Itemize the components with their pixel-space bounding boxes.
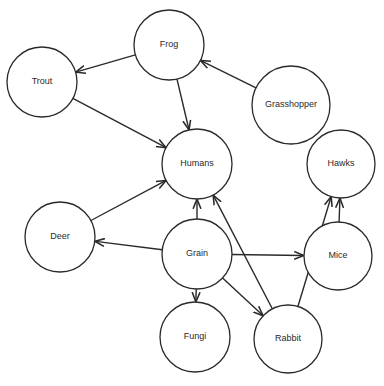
node-label: Mice bbox=[328, 250, 347, 260]
node-label: Frog bbox=[160, 39, 179, 49]
edge-grain-to-rabbit bbox=[223, 278, 263, 315]
edge-grain-to-mice bbox=[232, 255, 303, 256]
node-mice: Mice bbox=[304, 222, 372, 290]
node-hawks: Hawks bbox=[307, 130, 375, 198]
edge-grain-to-deer bbox=[96, 241, 163, 249]
node-label: Hawks bbox=[327, 158, 355, 168]
node-label: Rabbit bbox=[275, 333, 302, 343]
node-trout: Trout bbox=[7, 47, 77, 117]
edge-frog-to-trout bbox=[77, 55, 136, 72]
nodes-layer: FrogTroutGrasshopperHumansHawksDeerGrain… bbox=[7, 10, 375, 373]
node-label: Deer bbox=[50, 231, 70, 241]
node-label: Fungi bbox=[184, 331, 207, 341]
edge-grasshopper-to-frog bbox=[201, 61, 256, 88]
node-grain: Grain bbox=[162, 219, 232, 289]
edge-trout-to-humans bbox=[73, 98, 165, 147]
edge-frog-to-humans bbox=[177, 79, 189, 129]
node-deer: Deer bbox=[25, 202, 95, 272]
food-web-diagram: FrogTroutGrasshopperHumansHawksDeerGrain… bbox=[0, 0, 384, 386]
node-rabbit: Rabbit bbox=[254, 305, 322, 373]
edge-mice-to-hawks bbox=[339, 199, 340, 222]
node-label: Grasshopper bbox=[265, 99, 317, 109]
node-grasshopper: Grasshopper bbox=[252, 66, 330, 144]
node-fungi: Fungi bbox=[160, 302, 230, 372]
node-label: Grain bbox=[186, 248, 208, 258]
node-humans: Humans bbox=[162, 129, 232, 199]
node-label: Trout bbox=[32, 76, 53, 86]
node-label: Humans bbox=[180, 158, 214, 168]
node-frog: Frog bbox=[134, 10, 204, 80]
edge-deer-to-humans bbox=[91, 181, 165, 221]
